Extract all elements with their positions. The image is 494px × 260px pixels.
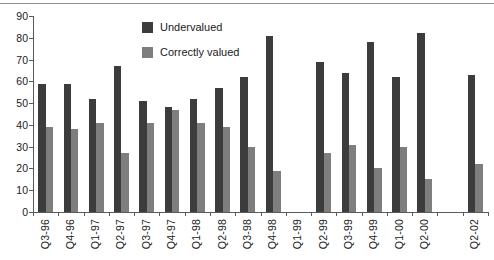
bar-undervalued [266,36,273,212]
bar-correctly-valued [147,123,154,212]
x-axis-tick-label: Q1-98 [191,219,202,249]
y-axis-tick-mark [29,125,33,126]
y-axis-tick-mark [29,16,33,17]
bar-undervalued [89,99,96,212]
bar-correctly-valued [96,123,103,212]
bar-undervalued [64,84,71,212]
bar-undervalued [367,42,374,212]
bar-undervalued [190,99,197,212]
bar-group [342,16,357,212]
x-axis-tick-mark [33,212,34,216]
bar-group [443,16,458,212]
bar-undervalued [417,33,424,212]
x-axis-tick-mark [235,212,236,216]
bar-correctly-valued [172,110,179,212]
x-axis-tick-label: Q1-97 [90,219,101,249]
x-axis-tick-mark [185,212,186,216]
legend-label: Correctly valued [160,47,239,58]
plot-area: 0102030405060708090 [33,16,488,212]
bar-undervalued [342,73,349,212]
bar-correctly-valued [248,147,255,212]
y-axis-tick-label: 90 [16,11,28,22]
bar-correctly-valued [71,129,78,212]
bar-group [240,16,255,212]
bar-correctly-valued [46,127,53,212]
legend-color-swatch [142,47,153,58]
bar-chart-figure: 0102030405060708090 Q3-96Q4-96Q1-97Q2-97… [0,0,494,260]
x-axis-tick-mark [311,212,312,216]
y-axis-tick-mark [29,103,33,104]
y-axis-tick-label: 70 [16,54,28,65]
chart-legend: UndervaluedCorrectly valued [142,17,239,67]
legend-label: Undervalued [160,22,222,33]
bar-undervalued [114,66,121,212]
bar-group [468,16,483,212]
y-axis-tick-mark [29,81,33,82]
y-axis-tick-label: 40 [16,120,28,131]
x-axis-tick-label: Q2-02 [469,219,480,249]
bar-group [417,16,432,212]
x-axis-tick-label: Q4-96 [65,219,76,249]
y-axis-tick-mark [29,38,33,39]
x-axis-tick-mark [412,212,413,216]
y-axis-tick-mark [29,60,33,61]
x-axis-tick-label: Q2-97 [115,219,126,249]
x-axis-tick-mark [134,212,135,216]
bar-correctly-valued [197,123,204,212]
x-axis-tick-mark [286,212,287,216]
legend-color-swatch [142,22,153,33]
x-axis-tick-mark [210,212,211,216]
bar-undervalued [392,77,399,212]
bar-group [266,16,281,212]
y-axis-tick-label: 50 [16,98,28,109]
y-axis-tick-label: 30 [16,141,28,152]
bar-group [392,16,407,212]
bar-undervalued [240,77,247,212]
x-axis-tick-label: Q4-99 [368,219,379,249]
y-axis-tick-mark [29,190,33,191]
bar-correctly-valued [324,153,331,212]
y-axis-tick-label: 0 [22,207,28,218]
y-axis-tick-label: 20 [16,163,28,174]
x-axis-tick-label: Q3-96 [40,219,51,249]
x-axis-tick-label: Q1-00 [394,219,405,249]
bar-correctly-valued [121,153,128,212]
legend-item: Correctly valued [142,42,239,62]
bar-correctly-valued [273,171,280,212]
x-axis-tick-mark [109,212,110,216]
bar-group [367,16,382,212]
bar-correctly-valued [374,168,381,212]
x-axis-tick-mark [84,212,85,216]
bar-group [114,16,129,212]
bar-undervalued [139,101,146,212]
bar-correctly-valued [349,145,356,213]
y-axis-tick-mark [29,168,33,169]
bar-undervalued [468,75,475,212]
x-axis-tick-label: Q3-97 [141,219,152,249]
x-axis-tick-mark [488,212,489,216]
x-axis-tick-label: Q1-99 [292,219,303,249]
x-axis-tick-mark [261,212,262,216]
x-axis-tick-label: Q2-00 [419,219,430,249]
bar-undervalued [38,84,45,212]
x-axis-tick-label: Q4-97 [166,219,177,249]
x-axis-tick-label: Q3-99 [343,219,354,249]
bar-correctly-valued [400,147,407,212]
bar-correctly-valued [223,127,230,212]
x-axis-tick-mark [387,212,388,216]
bar-correctly-valued [425,179,432,212]
x-axis-tick-label: Q4-98 [267,219,278,249]
y-axis-tick-label: 60 [16,76,28,87]
bar-undervalued [215,88,222,212]
y-axis-tick-label: 10 [16,185,28,196]
bar-undervalued [316,62,323,212]
bar-group [89,16,104,212]
x-axis-tick-mark [362,212,363,216]
bar-undervalued [165,107,172,212]
x-axis-tick-label: Q2-99 [318,219,329,249]
x-axis-tick-mark [159,212,160,216]
y-axis-tick-mark [29,147,33,148]
bar-group [64,16,79,212]
x-axis-tick-mark [437,212,438,216]
x-axis-tick-label: Q2-98 [217,219,228,249]
